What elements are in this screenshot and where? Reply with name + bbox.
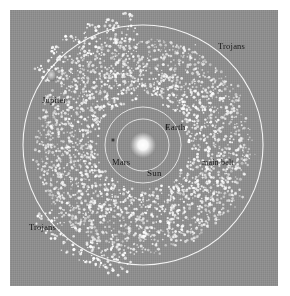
sun-body <box>130 132 156 158</box>
label-main-belt: main belt <box>202 158 234 167</box>
label-trojans-top: Trojans <box>218 41 245 51</box>
solar-system-scene: Trojans Trojans Jupiter Earth Mars Sun m… <box>10 10 278 286</box>
mars-body <box>112 139 115 142</box>
jupiter-body <box>47 71 56 81</box>
label-sun: Sun <box>147 168 162 178</box>
label-earth: Earth <box>165 122 186 132</box>
label-jupiter: Jupiter <box>42 95 67 105</box>
figure-panel: Trojans Trojans Jupiter Earth Mars Sun m… <box>10 10 278 286</box>
label-trojans-bottom: Trojans <box>29 222 56 232</box>
orbit-and-asteroid-layer <box>10 10 278 286</box>
asteroid-belt-figure: Trojans Trojans Jupiter Earth Mars Sun m… <box>0 0 290 296</box>
label-mars: Mars <box>112 157 130 167</box>
